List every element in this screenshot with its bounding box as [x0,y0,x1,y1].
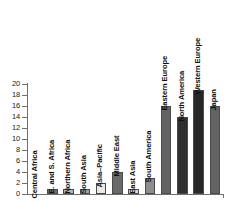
category-label: South Asia [80,155,88,193]
category-label: South America [145,130,153,182]
category-label: North America [178,71,186,122]
x-axis-line [27,194,224,195]
category-label: Middle East [113,135,121,176]
bar [193,90,204,195]
bar-chart: 02468101214161820 Central AfricaE. and S… [0,0,229,202]
x-axis-end-tick [223,195,224,198]
category-label: Western Europe [194,37,202,94]
y-tick-label: 6 [0,157,20,165]
bar [177,117,188,194]
category-label: Northern Africa [64,139,72,193]
category-label: Eastern Europe [162,56,170,111]
y-tick-label: 12 [0,124,20,132]
y-tick-label: 10 [0,135,20,143]
bar [210,106,221,194]
y-tick-label: 8 [0,146,20,154]
y-tick-label: 18 [0,91,20,99]
category-label: East Asia [129,160,137,193]
category-label: Japan [210,89,218,110]
y-tick [22,194,27,195]
bar [161,106,172,194]
y-tick-label: 2 [0,179,20,187]
y-tick-label: 16 [0,102,20,110]
category-label: Asia–Pacific [97,144,105,188]
category-label: Central Africa [32,150,40,198]
y-tick-label: 14 [0,113,20,121]
y-tick-label: 0 [0,190,20,198]
y-tick-label: 20 [0,80,20,88]
category-label: E. and S. Africa [48,139,56,193]
y-tick-label: 4 [0,168,20,176]
